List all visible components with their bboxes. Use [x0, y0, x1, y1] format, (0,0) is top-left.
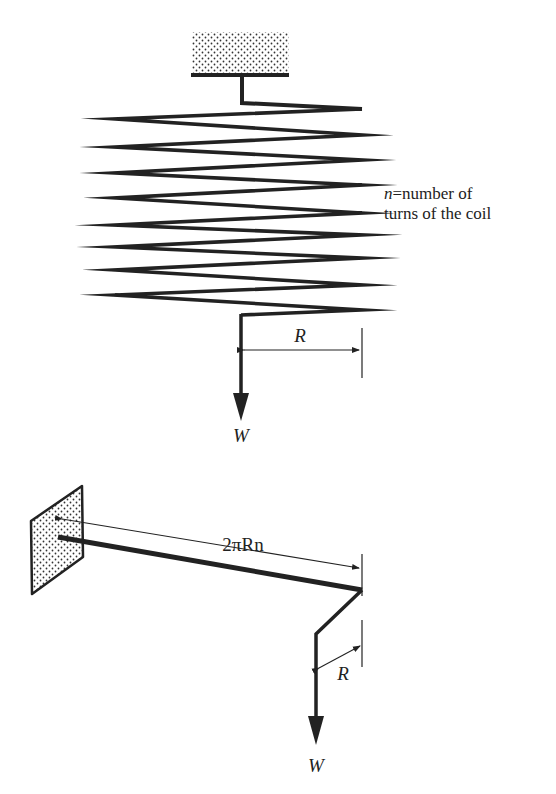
unwound-wire-figure: 2πRn R W — [31, 486, 362, 776]
load-arrow-icon-bottom — [308, 716, 324, 745]
load-label: W — [233, 425, 251, 446]
load-arrow-icon — [233, 393, 249, 421]
note-equals: = — [393, 184, 403, 203]
ceiling-support — [192, 32, 289, 75]
note-line-2: turns of the coil — [384, 204, 491, 224]
coil-spring-figure: R W — [115, 32, 362, 446]
note-line-1: n=number of — [384, 184, 491, 204]
straight-wire — [58, 537, 362, 590]
radius-label: R — [293, 325, 306, 346]
radius-label-bottom: R — [336, 663, 349, 684]
coil-turns — [115, 109, 362, 315]
spring-stem — [242, 75, 362, 109]
note-line-1-text: number of — [402, 184, 472, 203]
coil-turns-note: n=number of turns of the coil — [384, 184, 491, 224]
spring-diagram: R W 2πRn R W — [0, 0, 556, 794]
note-variable: n — [384, 184, 393, 203]
load-label-bottom: W — [308, 755, 326, 776]
length-label: 2πRn — [222, 534, 264, 555]
crank-arm — [316, 590, 362, 718]
